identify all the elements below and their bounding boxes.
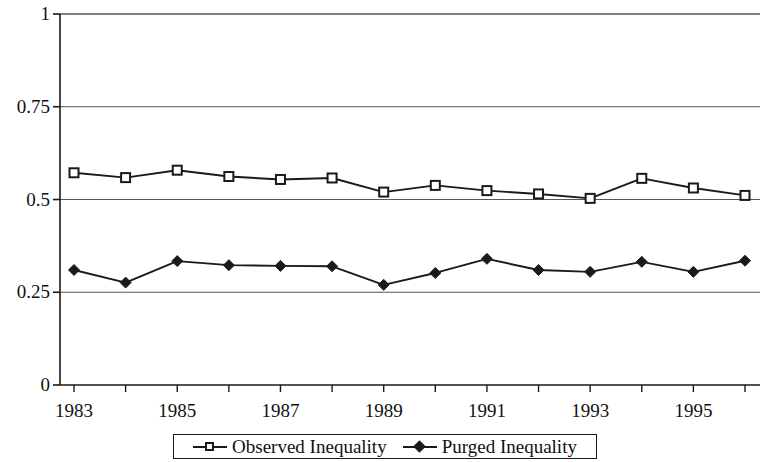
y-axis-tick-label: 0.25 bbox=[17, 282, 50, 301]
legend-entry-purged-inequality: Purged Inequality bbox=[403, 437, 577, 456]
data-point-marker-diamond bbox=[636, 256, 647, 267]
line-chart: 00.250.50.751 19831985198719891991199319… bbox=[0, 0, 769, 462]
data-point-marker-diamond bbox=[69, 264, 80, 275]
y-axis-tick-label: 0 bbox=[41, 375, 51, 394]
data-point-marker-square bbox=[328, 173, 337, 182]
data-point-marker-square bbox=[586, 194, 595, 203]
x-axis-ticks bbox=[74, 385, 745, 392]
x-axis-tick-label: 1995 bbox=[653, 401, 733, 420]
y-axis-tick-label: 0.5 bbox=[26, 190, 50, 209]
data-point-marker-square bbox=[70, 168, 79, 177]
x-axis-tick-label: 1983 bbox=[34, 401, 114, 420]
data-point-marker-square bbox=[741, 191, 750, 200]
data-point-marker-diamond bbox=[172, 256, 183, 267]
legend-label-observed-inequality: Observed Inequality bbox=[232, 437, 387, 456]
data-point-marker-diamond bbox=[223, 260, 234, 271]
data-point-marker-diamond bbox=[533, 264, 544, 275]
data-series-layer bbox=[69, 166, 751, 291]
x-axis-tick-label: 1985 bbox=[137, 401, 217, 420]
legend-entry-observed-inequality: Observed Inequality bbox=[193, 437, 387, 456]
data-point-marker-diamond bbox=[481, 253, 492, 264]
y-axis-tick-label: 0.75 bbox=[17, 97, 50, 116]
x-axis-tick-label: 1989 bbox=[344, 401, 424, 420]
data-point-marker-diamond bbox=[275, 260, 286, 271]
gridlines bbox=[60, 14, 760, 292]
square-marker-icon bbox=[193, 440, 227, 454]
y-axis-tick-label: 1 bbox=[41, 4, 51, 23]
data-point-marker-square bbox=[173, 166, 182, 175]
data-point-marker-square bbox=[689, 183, 698, 192]
diamond-marker-icon bbox=[403, 440, 437, 454]
data-point-marker-square bbox=[637, 174, 646, 183]
data-point-marker-square bbox=[431, 181, 440, 190]
data-point-marker-square bbox=[121, 173, 130, 182]
x-axis-tick-label: 1993 bbox=[550, 401, 630, 420]
y-axis-ticks bbox=[53, 14, 60, 385]
plot-area bbox=[0, 0, 769, 462]
data-point-marker-diamond bbox=[430, 267, 441, 278]
data-point-marker-diamond bbox=[378, 279, 389, 290]
x-axis-tick-label: 1991 bbox=[447, 401, 527, 420]
chart-legend: Observed Inequality Purged Inequality bbox=[173, 434, 597, 459]
data-point-marker-diamond bbox=[740, 255, 751, 266]
data-point-marker-square bbox=[276, 175, 285, 184]
data-point-marker-diamond bbox=[585, 266, 596, 277]
data-point-marker-square bbox=[482, 186, 491, 195]
data-point-marker-square bbox=[379, 188, 388, 197]
data-point-marker-square bbox=[534, 189, 543, 198]
data-point-marker-diamond bbox=[688, 266, 699, 277]
data-point-marker-diamond bbox=[120, 277, 131, 288]
legend-label-purged-inequality: Purged Inequality bbox=[442, 437, 577, 456]
data-point-marker-square bbox=[224, 172, 233, 181]
x-axis-tick-label: 1987 bbox=[240, 401, 320, 420]
data-point-marker-diamond bbox=[327, 261, 338, 272]
